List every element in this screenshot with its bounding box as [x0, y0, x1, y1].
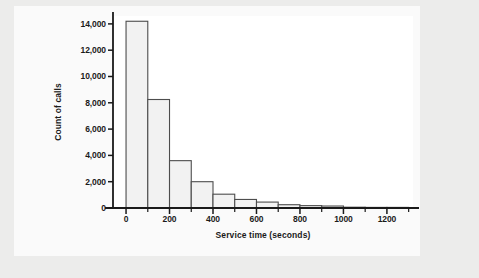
y-axis-tick-label: 12,000 [81, 45, 106, 55]
histogram-bar [213, 194, 235, 208]
x-axis-tick-label: 200 [163, 214, 177, 224]
x-axis-tick-label: 0 [124, 214, 129, 224]
histogram-bar [235, 199, 257, 208]
x-axis-tick-label: 1200 [378, 214, 397, 224]
histogram-bar [148, 100, 170, 208]
histogram-bar [191, 182, 213, 208]
x-axis-tick-label: 400 [206, 214, 220, 224]
x-axis-tick-label: 800 [293, 214, 307, 224]
y-axis-tick-label: 6,000 [85, 124, 106, 134]
y-axis-tick-label: 10,000 [81, 71, 106, 81]
x-axis-tick-label: 600 [250, 214, 264, 224]
histogram-bar [126, 21, 148, 208]
x-axis-tick-label: 1000 [334, 214, 353, 224]
y-axis-title: Count of calls [53, 83, 63, 141]
x-axis-title: Service time (seconds) [113, 230, 413, 240]
figure: 02,0004,0006,0008,00010,00012,00014,000 … [0, 0, 479, 278]
y-axis-tick-label: 8,000 [85, 98, 106, 108]
y-axis-tick-label: 4,000 [85, 150, 106, 160]
y-axis-tick-label: 0 [101, 203, 106, 213]
histogram-bar [170, 161, 192, 208]
x-axis-tick-labels: 020040060080010001200 [0, 214, 479, 228]
bars-group [126, 21, 409, 208]
y-axis-tick-label: 2,000 [85, 177, 106, 187]
y-axis-tick-label: 14,000 [81, 19, 106, 29]
